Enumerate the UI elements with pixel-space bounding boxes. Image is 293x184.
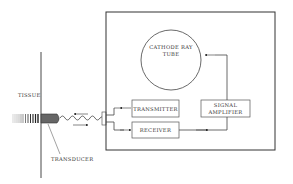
cable-connector [102, 112, 106, 125]
tissue-label: TISSUE [18, 92, 40, 98]
connector-to-transmitter-wire [106, 108, 114, 115]
cathode-ray-tube [141, 30, 201, 90]
crt-label-line1: CATHODE RAY [149, 44, 193, 50]
amplifier-to-crt-wire [215, 55, 227, 100]
connector-to-receiver-wire [106, 122, 124, 130]
transducer [41, 114, 59, 123]
amplifier-label-line1: SIGNAL [214, 102, 238, 108]
amplifier-label-line2: AMPLIFIER [207, 109, 243, 115]
transducer-leader-line [48, 124, 60, 154]
receiver-to-amplifier-wire [179, 117, 227, 130]
crt-label-line2: TUBE [163, 51, 180, 57]
transmitter-label: TRANSMITTER [133, 106, 178, 112]
ultrasound-block-diagram: TISSUE TRANSDUCER CATHODE RAY TUBE TRANS… [0, 0, 293, 184]
transducer-cable [60, 116, 103, 120]
transducer-label: TRANSDUCER [51, 156, 94, 162]
ultrasound-waves [13, 114, 38, 123]
receiver-label: RECEIVER [140, 127, 172, 133]
